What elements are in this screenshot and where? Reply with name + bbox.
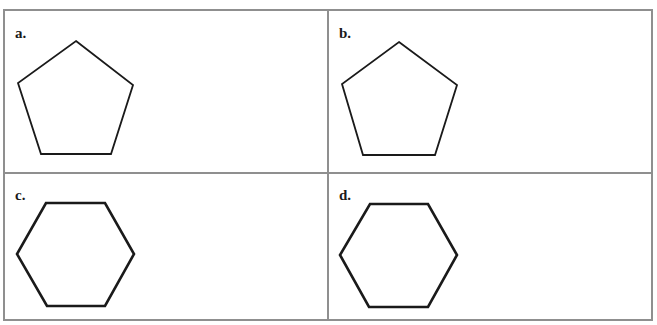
shapes-layer <box>0 0 657 325</box>
hexagon-shape-d <box>340 204 457 307</box>
pentagon-shape-b <box>342 42 457 155</box>
hexagon-shape-c <box>17 203 134 306</box>
pentagon-shape-a <box>18 41 133 154</box>
